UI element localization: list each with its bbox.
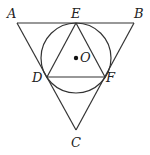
- label-e: E: [70, 6, 81, 21]
- label-a: A: [6, 6, 16, 21]
- geometry-diagram: A E B O D F C: [0, 0, 150, 155]
- label-b: B: [133, 6, 144, 21]
- center-point-o: [74, 56, 78, 60]
- label-d: D: [31, 70, 43, 85]
- label-f: F: [105, 70, 116, 85]
- segment-de: [47, 23, 76, 77]
- label-c: C: [71, 135, 81, 150]
- label-o: O: [80, 50, 91, 65]
